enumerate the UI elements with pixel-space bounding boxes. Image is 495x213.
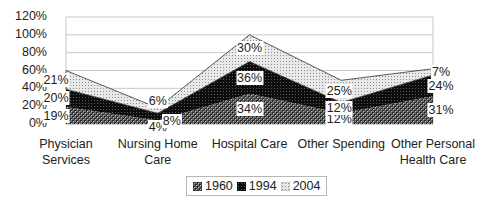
- legend-swatch-1960-icon: [193, 182, 202, 191]
- legend-label: 1960: [205, 179, 233, 193]
- y-tick-label: 80%: [22, 45, 47, 59]
- x-category-label: Hospital Care: [212, 136, 288, 152]
- legend-item-1960: 1960: [193, 179, 233, 193]
- y-tick-label: 120%: [15, 9, 47, 23]
- legend-swatch-1994-icon: [237, 182, 246, 191]
- data-label-1960: 31%: [427, 103, 454, 117]
- data-label-2004: 25%: [326, 84, 353, 98]
- data-label-1994: 20%: [42, 91, 69, 105]
- data-label-2004: 21%: [42, 73, 69, 87]
- data-label-1994: 8%: [162, 114, 182, 128]
- x-category-label: Other PersonalHealth Care: [391, 136, 475, 168]
- data-label-2004: 6%: [148, 94, 168, 108]
- data-label-1994: 12%: [326, 101, 353, 115]
- legend-label: 2004: [293, 179, 321, 193]
- data-label-1960: 34%: [236, 102, 263, 116]
- legend-item-2004: 2004: [281, 179, 321, 193]
- x-category-label: Other Spending: [297, 136, 385, 152]
- legend: 1960 1994 2004: [186, 176, 327, 196]
- x-category-label: Nursing HomeCare: [118, 136, 198, 168]
- data-label-2004: 30%: [236, 41, 263, 55]
- data-label-2004: 7%: [431, 65, 451, 79]
- data-label-1960: 19%: [42, 109, 69, 123]
- legend-item-1994: 1994: [237, 179, 277, 193]
- y-tick-label: 100%: [15, 27, 47, 41]
- legend-swatch-2004-icon: [281, 182, 290, 191]
- x-category-label: PhysicianServices: [39, 136, 93, 168]
- legend-label: 1994: [249, 179, 277, 193]
- data-label-1994: 24%: [427, 79, 454, 93]
- data-label-1994: 36%: [236, 71, 263, 85]
